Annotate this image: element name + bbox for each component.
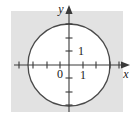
x-axis-label: x — [122, 67, 129, 81]
y-axis-one-tick-label: 1 — [78, 44, 84, 58]
coordinate-plane-figure: 0 1 1 x y — [0, 0, 134, 122]
x-axis-one-tick-label: 1 — [80, 68, 86, 82]
y-axis-arrowhead — [65, 5, 72, 14]
plot-svg: 0 1 1 x y — [0, 0, 134, 122]
y-axis-label: y — [57, 2, 64, 16]
origin-tick-label: 0 — [57, 67, 63, 81]
